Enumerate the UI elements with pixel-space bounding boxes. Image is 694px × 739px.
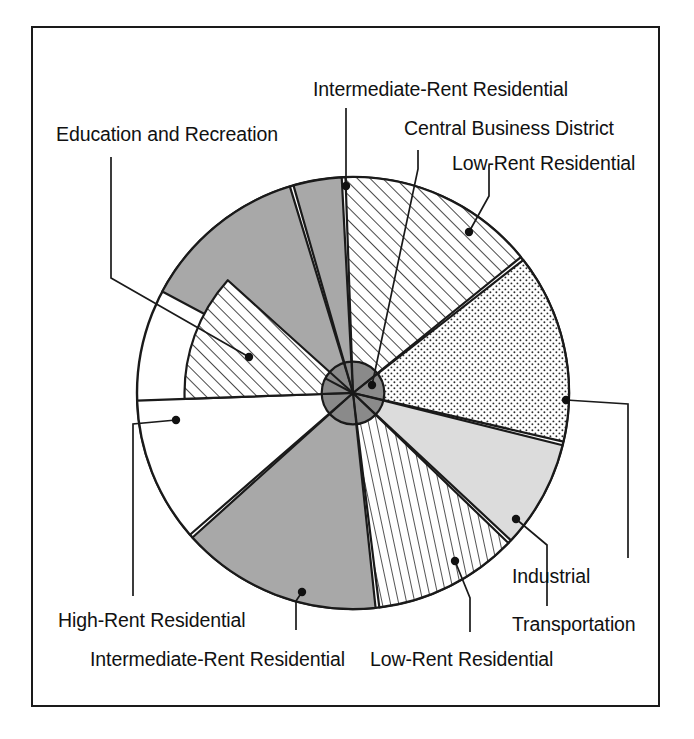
label-central-business-district: Central Business District [404, 117, 614, 139]
label-education-and-recreation: Education and Recreation [56, 123, 278, 145]
label-low-rent-residential-lower: Low-Rent Residential [370, 648, 553, 670]
figure-container: Intermediate-Rent Residential Central Bu… [0, 0, 694, 739]
label-high-rent-residential: High-Rent Residential [58, 609, 246, 631]
label-intermediate-rent-residential-bottom: Intermediate-Rent Residential [90, 648, 345, 670]
label-industrial: Industrial [512, 565, 590, 587]
label-transportation: Transportation [512, 613, 636, 635]
label-intermediate-rent-residential-top: Intermediate-Rent Residential [313, 78, 568, 100]
label-low-rent-residential-upper: Low-Rent Residential [452, 152, 635, 174]
